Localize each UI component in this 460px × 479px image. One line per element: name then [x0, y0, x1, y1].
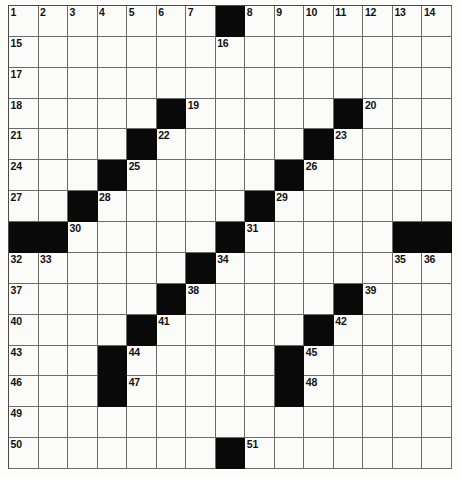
crossword-cell[interactable] — [304, 438, 334, 469]
crossword-cell[interactable] — [393, 160, 423, 191]
crossword-cell[interactable] — [127, 284, 157, 315]
crossword-cell[interactable] — [304, 37, 334, 68]
crossword-cell[interactable] — [422, 376, 452, 407]
crossword-cell[interactable] — [127, 99, 157, 130]
crossword-cell[interactable] — [39, 438, 69, 469]
crossword-cell[interactable]: 50 — [9, 438, 39, 469]
crossword-cell[interactable]: 24 — [9, 160, 39, 191]
crossword-cell[interactable] — [127, 438, 157, 469]
crossword-cell[interactable] — [216, 346, 246, 377]
crossword-cell[interactable] — [304, 284, 334, 315]
crossword-cell[interactable] — [363, 68, 393, 99]
crossword-cell[interactable] — [245, 346, 275, 377]
crossword-cell[interactable] — [363, 160, 393, 191]
crossword-cell[interactable] — [98, 99, 128, 130]
crossword-cell[interactable] — [216, 191, 246, 222]
crossword-cell[interactable] — [186, 129, 216, 160]
crossword-cell[interactable] — [334, 37, 364, 68]
crossword-cell[interactable] — [275, 129, 305, 160]
crossword-cell[interactable] — [157, 346, 187, 377]
crossword-cell[interactable] — [304, 222, 334, 253]
crossword-cell[interactable] — [157, 68, 187, 99]
crossword-cell[interactable] — [39, 191, 69, 222]
crossword-cell[interactable]: 27 — [9, 191, 39, 222]
crossword-cell[interactable] — [245, 160, 275, 191]
crossword-cell[interactable] — [68, 253, 98, 284]
crossword-cell[interactable]: 43 — [9, 346, 39, 377]
crossword-cell[interactable] — [422, 37, 452, 68]
crossword-cell[interactable] — [334, 160, 364, 191]
crossword-cell[interactable] — [186, 438, 216, 469]
crossword-cell[interactable]: 35 — [393, 253, 423, 284]
crossword-cell[interactable] — [127, 68, 157, 99]
crossword-cell[interactable]: 29 — [275, 191, 305, 222]
crossword-cell[interactable]: 25 — [127, 160, 157, 191]
crossword-cell[interactable] — [98, 438, 128, 469]
crossword-cell[interactable] — [216, 315, 246, 346]
crossword-cell[interactable] — [275, 315, 305, 346]
crossword-cell[interactable]: 5 — [127, 6, 157, 37]
crossword-cell[interactable] — [334, 407, 364, 438]
crossword-grid[interactable]: 1234567891011121314151617181920212223242… — [8, 5, 452, 469]
crossword-cell[interactable] — [186, 68, 216, 99]
crossword-cell[interactable]: 6 — [157, 6, 187, 37]
crossword-cell[interactable] — [68, 315, 98, 346]
crossword-cell[interactable]: 36 — [422, 253, 452, 284]
crossword-cell[interactable] — [304, 407, 334, 438]
crossword-cell[interactable]: 8 — [245, 6, 275, 37]
crossword-cell[interactable] — [68, 407, 98, 438]
crossword-cell[interactable] — [216, 284, 246, 315]
crossword-cell[interactable] — [68, 346, 98, 377]
crossword-cell[interactable]: 32 — [9, 253, 39, 284]
crossword-cell[interactable] — [363, 315, 393, 346]
crossword-cell[interactable] — [334, 346, 364, 377]
crossword-cell[interactable] — [363, 253, 393, 284]
crossword-cell[interactable]: 7 — [186, 6, 216, 37]
crossword-cell[interactable] — [275, 284, 305, 315]
crossword-cell[interactable]: 13 — [393, 6, 423, 37]
crossword-cell[interactable]: 48 — [304, 376, 334, 407]
crossword-cell[interactable] — [275, 68, 305, 99]
crossword-cell[interactable] — [363, 129, 393, 160]
crossword-cell[interactable] — [393, 407, 423, 438]
crossword-cell[interactable]: 41 — [157, 315, 187, 346]
crossword-cell[interactable] — [275, 438, 305, 469]
crossword-cell[interactable] — [39, 99, 69, 130]
crossword-cell[interactable] — [39, 315, 69, 346]
crossword-cell[interactable] — [127, 191, 157, 222]
crossword-cell[interactable] — [304, 191, 334, 222]
crossword-cell[interactable] — [39, 68, 69, 99]
crossword-cell[interactable] — [334, 438, 364, 469]
crossword-cell[interactable] — [186, 407, 216, 438]
crossword-cell[interactable] — [186, 222, 216, 253]
crossword-cell[interactable] — [39, 160, 69, 191]
crossword-cell[interactable] — [393, 438, 423, 469]
crossword-cell[interactable] — [157, 438, 187, 469]
crossword-cell[interactable] — [363, 191, 393, 222]
crossword-cell[interactable] — [334, 376, 364, 407]
crossword-cell[interactable]: 34 — [216, 253, 246, 284]
crossword-cell[interactable]: 15 — [9, 37, 39, 68]
crossword-cell[interactable] — [334, 68, 364, 99]
crossword-cell[interactable]: 4 — [98, 6, 128, 37]
crossword-cell[interactable]: 9 — [275, 6, 305, 37]
crossword-cell[interactable]: 47 — [127, 376, 157, 407]
crossword-cell[interactable]: 12 — [363, 6, 393, 37]
crossword-cell[interactable] — [68, 129, 98, 160]
crossword-cell[interactable] — [98, 315, 128, 346]
crossword-cell[interactable]: 44 — [127, 346, 157, 377]
crossword-cell[interactable] — [334, 191, 364, 222]
crossword-cell[interactable] — [422, 129, 452, 160]
crossword-cell[interactable] — [422, 315, 452, 346]
crossword-cell[interactable] — [157, 376, 187, 407]
crossword-cell[interactable] — [98, 129, 128, 160]
crossword-cell[interactable] — [393, 284, 423, 315]
crossword-cell[interactable]: 42 — [334, 315, 364, 346]
crossword-cell[interactable]: 31 — [245, 222, 275, 253]
crossword-cell[interactable] — [68, 376, 98, 407]
crossword-cell[interactable]: 22 — [157, 129, 187, 160]
crossword-cell[interactable] — [157, 222, 187, 253]
crossword-cell[interactable] — [216, 68, 246, 99]
crossword-cell[interactable] — [98, 222, 128, 253]
crossword-cell[interactable] — [127, 407, 157, 438]
